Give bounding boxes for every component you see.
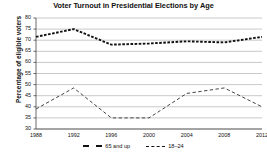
chart-legend: 65 and up18–24: [0, 143, 267, 149]
series-line-2: [36, 88, 262, 118]
legend-swatch-icon: [83, 145, 102, 147]
legend-label: 65 and up: [105, 143, 130, 149]
legend-item[interactable]: 65 and up: [83, 143, 130, 149]
series-line-1: [36, 29, 262, 45]
chart-container: Voter Turnout in Presidential Elections …: [0, 0, 267, 156]
legend-label: 18–24: [168, 143, 184, 149]
legend-swatch-icon: [146, 146, 165, 147]
legend-item[interactable]: 18–24: [146, 143, 184, 149]
plot-area: [0, 0, 267, 156]
